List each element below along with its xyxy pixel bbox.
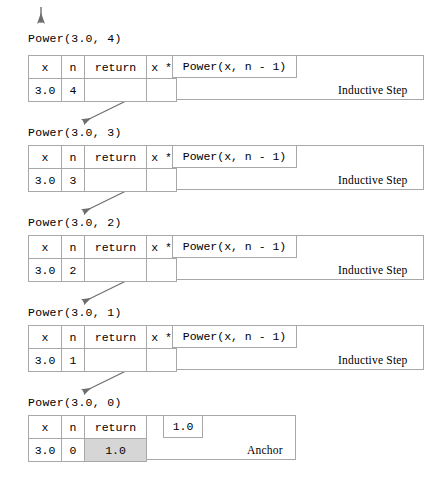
value-operator-4 (147, 349, 177, 372)
value-n-4: 1 (62, 349, 85, 372)
frame-table-2: x n return x * 3.0 3 (28, 145, 177, 192)
kind-label-1: Inductive Step (338, 84, 408, 96)
call-label-5: Power(3.0, 0) (28, 396, 122, 409)
col-header-x: x (29, 326, 62, 349)
value-return-1 (85, 79, 147, 102)
table-header-row: x n return x * (29, 146, 177, 169)
kind-label-5: Anchor (247, 444, 283, 456)
col-header-return: return (85, 236, 147, 259)
col-header-n: n (62, 236, 85, 259)
table-value-row: 3.0 2 (29, 259, 177, 282)
value-return-2 (85, 169, 147, 192)
value-x-5: 3.0 (29, 439, 62, 462)
col-header-x: x (29, 146, 62, 169)
call-label-2: Power(3.0, 3) (28, 126, 122, 139)
col-header-x: x (29, 416, 62, 439)
col-header-return: return (85, 146, 147, 169)
value-x-1: 3.0 (29, 79, 62, 102)
recursive-call-box-2: Power(x, n - 1) (172, 145, 297, 168)
kind-label-4: Inductive Step (338, 354, 408, 366)
col-header-return: return (85, 56, 147, 79)
col-header-x: x (29, 236, 62, 259)
value-return-5: 1.0 (85, 439, 147, 462)
col-header-return: return (85, 326, 147, 349)
value-operator-1 (147, 79, 177, 102)
value-operator-3 (147, 259, 177, 282)
col-header-n: n (62, 416, 85, 439)
call-label-3: Power(3.0, 2) (28, 216, 122, 229)
value-x-2: 3.0 (29, 169, 62, 192)
value-n-2: 3 (62, 169, 85, 192)
table-header-row: x n return x * (29, 236, 177, 259)
table-header-row: x n return x * (29, 326, 177, 349)
value-x-4: 3.0 (29, 349, 62, 372)
value-n-1: 4 (62, 79, 85, 102)
value-n-5: 0 (62, 439, 85, 462)
frame-table-1: x n return x * 3.0 4 (28, 55, 177, 102)
kind-label-2: Inductive Step (338, 174, 408, 186)
frame-table-5: x n return 3.0 0 1.0 (28, 415, 147, 462)
frame-table-4: x n return x * 3.0 1 (28, 325, 177, 372)
call-label-4: Power(3.0, 1) (28, 306, 122, 319)
col-header-return: return (85, 416, 147, 439)
recursive-call-box-1: Power(x, n - 1) (172, 55, 297, 78)
col-header-n: n (62, 56, 85, 79)
value-n-3: 2 (62, 259, 85, 282)
table-value-row: 3.0 3 (29, 169, 177, 192)
value-operator-2 (147, 169, 177, 192)
recursive-call-box-3: Power(x, n - 1) (172, 235, 297, 258)
col-header-x: x (29, 56, 62, 79)
table-header-row: x n return (29, 416, 147, 439)
col-header-n: n (62, 146, 85, 169)
table-value-row: 3.0 1 (29, 349, 177, 372)
table-value-row: 3.0 4 (29, 79, 177, 102)
recursive-call-box-4: Power(x, n - 1) (172, 325, 297, 348)
value-x-3: 3.0 (29, 259, 62, 282)
recursion-trace-diagram: Power(3.0, 4) x n return x * 3.0 4 Power… (0, 0, 437, 488)
value-return-4 (85, 349, 147, 372)
kind-label-3: Inductive Step (338, 264, 408, 276)
table-value-row: 3.0 0 1.0 (29, 439, 147, 462)
col-header-n: n (62, 326, 85, 349)
call-label-1: Power(3.0, 4) (28, 32, 122, 45)
frame-table-3: x n return x * 3.0 2 (28, 235, 177, 282)
anchor-value-box: 1.0 (163, 415, 203, 438)
value-return-3 (85, 259, 147, 282)
table-header-row: x n return x * (29, 56, 177, 79)
